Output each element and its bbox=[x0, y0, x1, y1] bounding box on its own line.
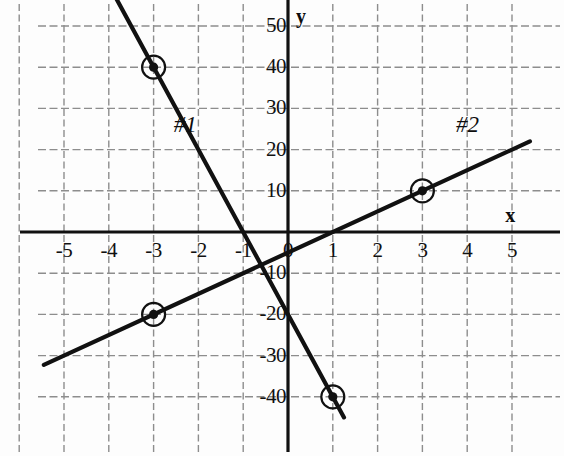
x-tick-label: -4 bbox=[93, 240, 125, 261]
x-tick-label: 4 bbox=[451, 240, 483, 261]
y-tick-label: -40 bbox=[230, 386, 286, 407]
x-tick-label: -3 bbox=[138, 240, 170, 261]
y-axis-label: y bbox=[296, 6, 306, 26]
x-tick-label: 0 bbox=[272, 240, 304, 261]
horizontal-gridlines bbox=[38, 26, 560, 397]
graph-figure: -5-4-3-2-1012345 5040302010-10-20-30-40 … bbox=[0, 0, 564, 456]
x-tick-label: 2 bbox=[362, 240, 394, 261]
y-tick-label: -20 bbox=[230, 303, 286, 324]
y-tick-label: 40 bbox=[230, 56, 286, 77]
y-tick-label: 10 bbox=[230, 180, 286, 201]
x-tick-label: -1 bbox=[227, 240, 259, 261]
y-tick-label: -30 bbox=[230, 345, 286, 366]
x-tick-label: 5 bbox=[496, 240, 528, 261]
x-tick-label: 3 bbox=[406, 240, 438, 261]
x-axis-label: x bbox=[505, 205, 515, 225]
y-tick-label: 20 bbox=[230, 139, 286, 160]
y-tick-label: 30 bbox=[230, 97, 286, 118]
series-label-2: #2 bbox=[456, 113, 479, 136]
y-tick-label: 50 bbox=[230, 15, 286, 36]
x-tick-label: -5 bbox=[48, 240, 80, 261]
y-tick-label: -10 bbox=[230, 262, 286, 283]
x-tick-label: -2 bbox=[182, 240, 214, 261]
x-tick-label: 1 bbox=[317, 240, 349, 261]
series-label-1: #1 bbox=[174, 113, 197, 136]
